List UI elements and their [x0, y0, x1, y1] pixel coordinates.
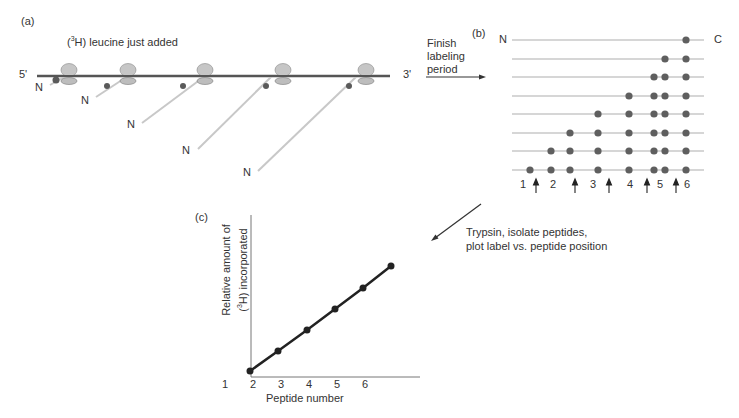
plot-line	[250, 266, 391, 371]
arrow-up-icon	[534, 179, 539, 193]
ribosome-icon	[275, 64, 291, 85]
arrow-up-icon	[674, 179, 679, 193]
label-dots-b	[526, 36, 689, 173]
completed-chains	[512, 40, 704, 170]
ribosome-icon	[120, 64, 136, 85]
ribosome-icon	[358, 64, 374, 85]
cleavage-arrows	[534, 179, 679, 193]
arrow-right-icon	[426, 75, 486, 80]
nascent-chains	[50, 76, 357, 171]
arrow-up-icon	[573, 179, 578, 193]
ribosome-icon	[197, 64, 213, 85]
arrow-up-icon	[645, 179, 650, 193]
arrow-down-left-icon	[431, 204, 481, 241]
arrow-up-icon	[607, 179, 612, 193]
diagram-graphics	[0, 0, 739, 418]
ribosomes	[61, 64, 374, 85]
ribosome-icon	[61, 64, 77, 85]
